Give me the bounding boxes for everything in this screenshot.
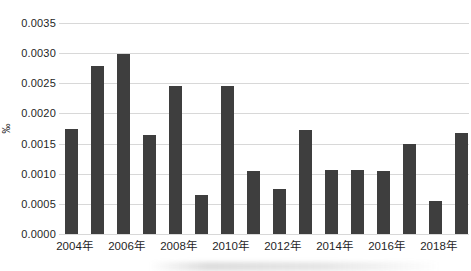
y-axis-tick-label: 0.0025 (16, 77, 56, 89)
x-axis-tick-label: 2018年 (415, 240, 463, 253)
x-axis-tick-label: 2016年 (363, 240, 411, 253)
bar-chart-figure: ‰ 0.00000.00050.00100.00150.00200.00250.… (0, 0, 471, 271)
bar (403, 144, 416, 234)
scan-artifact (150, 262, 440, 271)
bar (169, 86, 182, 234)
bar (91, 66, 104, 234)
gridline (59, 23, 469, 24)
bar (195, 195, 208, 234)
bar (299, 130, 312, 234)
y-axis-tick-label: 0.0010 (16, 168, 56, 180)
plot-area: 0.00000.00050.00100.00150.00200.00250.00… (0, 0, 471, 271)
bar (429, 201, 442, 234)
y-axis-tick-label: 0.0000 (16, 228, 56, 240)
bar (143, 135, 156, 234)
x-axis-tick-label: 2010年 (207, 240, 255, 253)
bar (65, 129, 78, 235)
x-axis-tick-label: 2004年 (51, 240, 99, 253)
bar (273, 189, 286, 234)
x-axis-tick-label: 2012年 (259, 240, 307, 253)
x-axis-tick-label: 2006年 (103, 240, 151, 253)
y-axis-tick-label: 0.0035 (16, 17, 56, 29)
y-axis-tick-label: 0.0020 (16, 107, 56, 119)
y-axis-tick-label: 0.0015 (16, 138, 56, 150)
bar (377, 171, 390, 234)
bar (455, 133, 468, 234)
bar (117, 54, 130, 234)
y-axis-tick-label: 0.0005 (16, 198, 56, 210)
bar (247, 171, 260, 234)
bar (351, 170, 364, 234)
x-axis-tick-label: 2014年 (311, 240, 359, 253)
bar (221, 86, 234, 234)
gridline (59, 234, 469, 235)
y-axis-tick-label: 0.0030 (16, 47, 56, 59)
bar (325, 170, 338, 234)
x-axis-tick-label: 2008年 (155, 240, 203, 253)
